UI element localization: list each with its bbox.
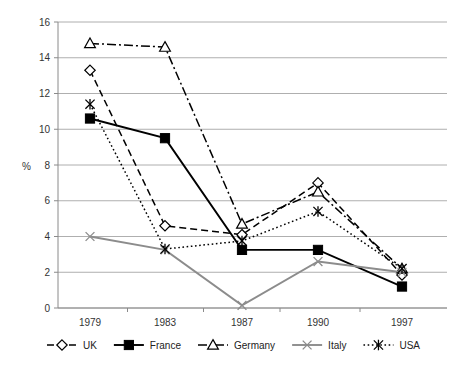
axes [54, 22, 447, 312]
x-tick-label: 1983 [154, 317, 177, 328]
y-tick-label: 8 [44, 160, 50, 171]
y-tick-label: 14 [39, 52, 51, 63]
data-point-germany [313, 186, 324, 196]
data-point-uk [160, 221, 170, 231]
series-italy [86, 232, 407, 310]
legend-label: Italy [328, 340, 346, 351]
y-tick-label: 2 [44, 267, 50, 278]
y-tick-label: 0 [44, 303, 50, 314]
series-line-france [90, 119, 402, 287]
data-point-france [397, 282, 406, 291]
chart-canvas: 0246810121416 19791983198719901997 UKFra… [0, 0, 467, 372]
data-point-usa [313, 206, 322, 217]
legend-item-usa[interactable]: USA [363, 340, 420, 351]
legend-item-italy[interactable]: Italy [292, 340, 346, 351]
legend-item-germany[interactable]: Germany [198, 340, 275, 351]
y-tick-label: 16 [39, 17, 51, 28]
y-tick-label: 10 [39, 124, 51, 135]
data-point-france [237, 245, 246, 254]
series-france [85, 114, 406, 291]
data-point-france [313, 245, 322, 254]
data-point-usa [85, 99, 94, 110]
data-point-uk [85, 65, 95, 75]
y-axis-label: % [22, 161, 31, 172]
y-tick-label: 4 [44, 231, 50, 242]
data-point-germany [237, 219, 248, 229]
legend-label: USA [399, 340, 420, 351]
line-chart: 0246810121416 19791983198719901997 UKFra… [0, 0, 467, 372]
chart-legend: UKFranceGermanyItalyUSA [47, 340, 420, 351]
data-point-germany [85, 38, 96, 48]
y-tick-label: 6 [44, 195, 50, 206]
x-tick-label: 1979 [79, 317, 102, 328]
legend-label: Germany [234, 340, 275, 351]
y-tick-labels: 0246810121416 [39, 17, 51, 314]
x-tick-labels: 19791983198719901997 [79, 317, 414, 328]
legend-marker-uk [57, 340, 67, 350]
data-point-france [160, 134, 169, 143]
data-point-usa [237, 236, 246, 247]
legend-item-france[interactable]: France [114, 340, 182, 351]
x-tick-label: 1990 [307, 317, 330, 328]
series-layer [85, 38, 408, 310]
gridlines [58, 22, 447, 308]
legend-label: UK [83, 340, 97, 351]
y-tick-label: 12 [39, 88, 51, 99]
x-tick-label: 1987 [231, 317, 254, 328]
legend-marker-france [124, 340, 133, 349]
x-tick-label: 1997 [391, 317, 414, 328]
legend-item-uk[interactable]: UK [47, 340, 97, 351]
legend-label: France [150, 340, 182, 351]
data-point-france [85, 114, 94, 123]
